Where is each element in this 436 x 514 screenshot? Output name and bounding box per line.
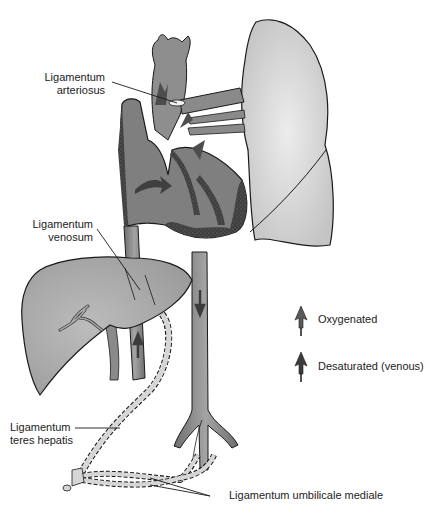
- legend-desaturated-label: Desaturated (venous): [318, 360, 424, 372]
- label-line: arteriosus: [40, 84, 105, 97]
- label-line: teres hepatis: [10, 434, 80, 447]
- oxygenated-arrow-icon: [295, 306, 307, 336]
- heart: [118, 35, 247, 238]
- lung: [242, 20, 334, 246]
- umbilicus: [63, 468, 84, 491]
- ligamentum-umbilicale-mediale: [82, 455, 214, 485]
- label-line: Ligamentum: [28, 218, 93, 231]
- desaturated-arrow-icon: [295, 352, 307, 382]
- label-line: venosum: [28, 231, 93, 244]
- label-line: Ligamentum: [40, 71, 105, 84]
- legend-oxygenated-label: Oxygenated: [318, 313, 377, 325]
- label-ligamentum-venosum: Ligamentum venosum: [28, 218, 93, 244]
- label-ligamentum-teres-hepatis: Ligamentum teres hepatis: [10, 421, 80, 447]
- label-ligamentum-umbilicale-mediale: Ligamentum umbilicale mediale: [229, 489, 383, 502]
- label-line: Ligamentum: [10, 421, 80, 434]
- label-ligamentum-arteriosus: Ligamentum arteriosus: [40, 71, 105, 97]
